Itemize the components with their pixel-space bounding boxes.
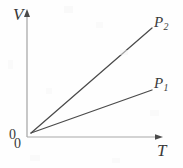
volume-temperature-isobar-figure: V T 0 0 P2 P1 <box>0 0 183 168</box>
y-axis-arrowhead <box>24 9 30 17</box>
isobar-line-p2 <box>31 28 152 133</box>
y-axis-label: V <box>13 6 23 23</box>
curve-label-p1-base: P <box>154 75 163 91</box>
curve-label-p2-base: P <box>154 14 163 30</box>
curve-label-p1-subscript: 1 <box>164 82 169 93</box>
x-axis-label: T <box>157 142 166 159</box>
x-axis-arrowhead <box>155 134 163 140</box>
curve-label-p1: P1 <box>154 76 168 91</box>
curve-label-p2: P2 <box>154 15 168 30</box>
isobar-line-p1 <box>31 90 152 133</box>
origin-label-secondary: 0 <box>14 137 21 151</box>
curve-label-p2-subscript: 2 <box>164 21 169 32</box>
